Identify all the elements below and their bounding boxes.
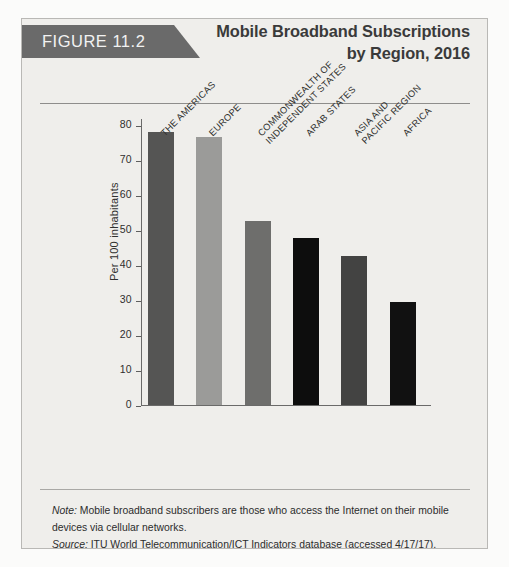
bar	[293, 238, 319, 405]
note-divider	[40, 489, 470, 490]
source-lead: Source:	[52, 539, 88, 549]
y-axis-tick-mark	[136, 196, 141, 197]
x-axis-label: ASIA AND PACIFIC REGION	[352, 75, 424, 147]
figure-note: Note: Mobile broadband subscribers are t…	[52, 503, 461, 537]
figure-card: FIGURE 11.2 Mobile Broadband Subscriptio…	[21, 18, 488, 549]
chart-plot-region: Per 100 inhabitants 01020304050607080 TH…	[22, 111, 487, 491]
y-axis-tick-label: 60	[120, 188, 132, 200]
plot-area: 01020304050607080 THE AMERICASEUROPECOMM…	[141, 125, 431, 406]
x-axis-label: AFRICA	[401, 106, 434, 139]
x-axis-label: EUROPE	[207, 102, 244, 139]
y-axis-tick-label: 50	[120, 223, 132, 235]
bar	[196, 137, 222, 405]
bar	[245, 221, 271, 405]
y-axis-tick-label: 30	[120, 293, 132, 305]
y-axis-tick-label: 0	[126, 398, 132, 410]
note-lead: Note:	[52, 505, 77, 516]
y-axis-tick-mark	[136, 301, 141, 302]
y-axis-tick-label: 40	[120, 258, 132, 270]
figure-title-line-1: Mobile Broadband Subscriptions	[200, 21, 470, 43]
figure-footnotes: Note: Mobile broadband subscribers are t…	[52, 503, 461, 549]
y-axis-title: Per 100 inhabitants	[108, 182, 120, 281]
note-text: Mobile broadband subscribers are those w…	[52, 505, 449, 533]
y-axis-tick-mark	[136, 231, 141, 232]
y-axis-tick-label: 70	[120, 153, 132, 165]
y-axis-tick-mark	[136, 266, 141, 267]
figure-number-label: FIGURE 11.2	[22, 32, 145, 51]
y-axis-tick-mark	[136, 161, 141, 162]
y-axis-tick-label: 20	[120, 328, 132, 340]
y-axis-tick-mark	[136, 336, 141, 337]
figure-source: Source: ITU World Telecommunication/ICT …	[52, 537, 461, 549]
y-axis-tick-label: 10	[120, 363, 132, 375]
y-axis-line	[141, 119, 142, 406]
y-axis-tick-label: 80	[120, 118, 132, 130]
source-text: ITU World Telecommunication/ICT Indicato…	[88, 539, 436, 549]
y-axis-tick-mark	[136, 371, 141, 372]
bar	[390, 302, 416, 405]
y-axis-tick-mark	[136, 126, 141, 127]
bar	[341, 256, 367, 405]
bar	[148, 132, 174, 405]
y-axis-tick-mark	[136, 406, 141, 407]
figure-header: FIGURE 11.2 Mobile Broadband Subscriptio…	[22, 19, 487, 83]
x-axis-line	[141, 405, 431, 406]
figure-number-tab: FIGURE 11.2	[22, 25, 200, 58]
